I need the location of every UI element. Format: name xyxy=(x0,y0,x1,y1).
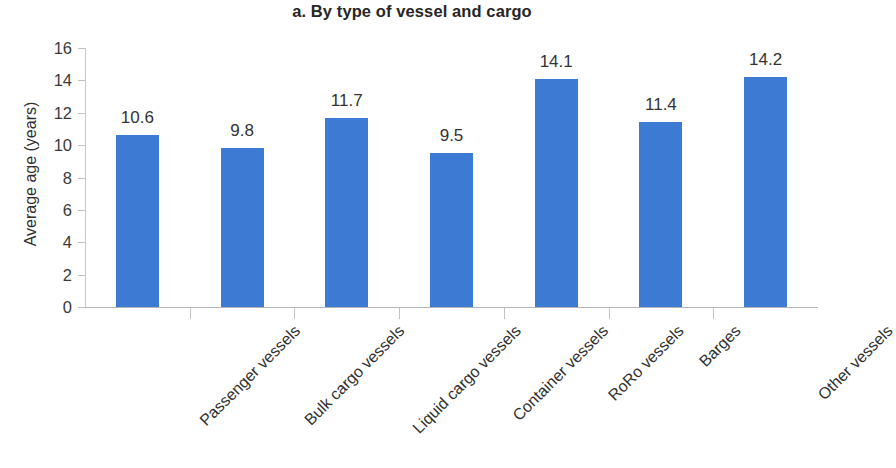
x-axis-label: Passenger vessels xyxy=(197,322,305,430)
bar-value-label: 9.5 xyxy=(412,127,492,144)
bar[interactable] xyxy=(221,148,264,307)
x-tick-mark xyxy=(190,308,191,319)
bar[interactable] xyxy=(744,77,787,307)
y-tick-mark xyxy=(78,48,85,49)
x-axis-label: Barges xyxy=(696,322,745,371)
x-tick-mark xyxy=(713,308,714,319)
y-tick-label: 12 xyxy=(42,113,72,114)
bar[interactable] xyxy=(535,79,578,307)
bar[interactable] xyxy=(430,153,473,307)
bar-value-label: 14.1 xyxy=(516,53,596,70)
y-tick-mark xyxy=(78,210,85,211)
y-tick-mark xyxy=(78,275,85,276)
bar-value-label: 11.7 xyxy=(307,92,387,109)
bar-value-label: 11.4 xyxy=(621,96,701,113)
bar-value-label: 10.6 xyxy=(97,109,177,126)
bar-value-label: 9.8 xyxy=(202,122,282,139)
y-tick-label: 8 xyxy=(42,178,72,179)
y-tick-label: 10 xyxy=(42,145,72,146)
y-tick-label: 16 xyxy=(42,48,72,49)
y-tick-label: 14 xyxy=(42,80,72,81)
y-tick-label: 6 xyxy=(42,210,72,211)
bar[interactable] xyxy=(639,122,682,307)
x-tick-mark xyxy=(294,308,295,319)
x-axis-line xyxy=(85,307,818,308)
x-axis-label: Other vessels xyxy=(814,322,896,404)
y-tick-mark xyxy=(78,307,85,308)
x-axis-label: Liquid cargo vessels xyxy=(409,322,524,437)
x-axis-label: RoRo vessels xyxy=(605,322,688,405)
y-axis-title: Average age (years) xyxy=(22,79,40,269)
x-tick-mark xyxy=(504,308,505,319)
x-tick-mark xyxy=(399,308,400,319)
x-axis-label: Bulk cargo vessels xyxy=(301,322,408,429)
y-tick-label: 4 xyxy=(42,242,72,243)
y-tick-label: 2 xyxy=(42,275,72,276)
bar-value-label: 14.2 xyxy=(726,51,806,68)
y-tick-label: 0 xyxy=(42,307,72,308)
x-axis-label: Container vessels xyxy=(509,322,612,425)
chart-title: a. By type of vessel and cargo xyxy=(0,2,824,21)
bar[interactable] xyxy=(116,135,159,307)
x-tick-mark xyxy=(609,308,610,319)
bar[interactable] xyxy=(325,118,368,307)
y-tick-mark xyxy=(78,178,85,179)
y-tick-mark xyxy=(78,80,85,81)
y-tick-mark xyxy=(78,242,85,243)
y-tick-mark xyxy=(78,145,85,146)
plot-area xyxy=(85,48,818,307)
y-tick-mark xyxy=(78,113,85,114)
